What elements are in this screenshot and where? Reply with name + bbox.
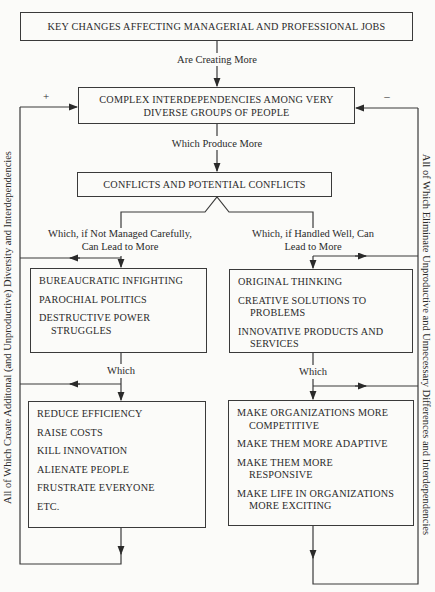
- negative-effect-item: FRUSTRATE EVERYONE: [37, 482, 205, 495]
- right-branch-line-1: Which, if Handled Well, Can: [240, 228, 386, 241]
- negative-effect-item: ALIENATE PEOPLE: [37, 464, 205, 477]
- item-line-2: SERVICES: [238, 338, 412, 351]
- right-which-label: Which: [293, 366, 333, 379]
- item-line: ORIGINAL THINKING: [238, 276, 342, 287]
- complex-line-1: COMPLEX INTERDEPENDENCIES AMONG VERY: [99, 93, 333, 106]
- complex-line-2: DIVERSE GROUPS OF PEOPLE: [143, 106, 289, 119]
- negative-feedback-sign: –: [381, 90, 393, 103]
- item-line-2: COMPETITIVE: [237, 420, 413, 433]
- positive-effect-item: MAKE THEM MORE ADAPTIVE: [237, 438, 413, 451]
- conflicts-text: CONFLICTS AND POTENTIAL CONFLICTS: [103, 178, 305, 191]
- item-line: FRUSTRATE EVERYONE: [37, 482, 155, 493]
- item-line: DESTRUCTIVE POWER: [39, 312, 150, 323]
- item-line: MAKE THEM MORE: [237, 457, 333, 468]
- left-feedback-label: All of Which Create Additonal (and Unpro…: [2, 128, 13, 528]
- positive-feedback-sign: +: [40, 90, 52, 103]
- negative-outcome-item: PAROCHIAL POLITICS: [39, 294, 206, 307]
- complex-interdependencies-box: COMPLEX INTERDEPENDENCIES AMONG VERY DIV…: [78, 87, 355, 124]
- positive-outcome-item: CREATIVE SOLUTIONS TO PROBLEMS: [238, 295, 412, 320]
- edge-label-which-produce-more: Which Produce More: [157, 138, 277, 151]
- item-line-2: RESPONSIVE: [237, 469, 413, 482]
- positive-effect-item: MAKE THEM MORE RESPONSIVE: [237, 457, 413, 482]
- right-branch-label: Which, if Handled Well, Can Lead to More: [240, 228, 386, 253]
- item-line-2: MORE EXCITING: [237, 500, 413, 513]
- negative-outcome-item: DESTRUCTIVE POWER STRUGGLES: [39, 312, 206, 337]
- item-line: INNOVATIVE PRODUCTS AND: [238, 326, 383, 337]
- right-branch-line-2: Lead to More: [240, 241, 386, 254]
- left-branch-label: Which, if Not Managed Carefully, Can Lea…: [30, 228, 210, 253]
- positive-outcomes-box: ORIGINAL THINKING CREATIVE SOLUTIONS TO …: [229, 269, 413, 353]
- item-line: MAKE LIFE IN ORGANIZATIONS: [237, 488, 394, 499]
- positive-outcome-item: INNOVATIVE PRODUCTS AND SERVICES: [238, 326, 412, 351]
- item-line: ETC.: [37, 501, 60, 512]
- conflicts-box: CONFLICTS AND POTENTIAL CONFLICTS: [77, 172, 332, 197]
- positive-effect-item: MAKE ORGANIZATIONS MORE COMPETITIVE: [237, 407, 413, 432]
- negative-effects-box: REDUCE EFFICIENCY RAISE COSTS KILL INNOV…: [28, 401, 206, 528]
- key-changes-text: KEY CHANGES AFFECTING MANAGERIAL AND PRO…: [48, 20, 386, 33]
- negative-outcomes-box: BUREAUCRATIC INFIGHTING PAROCHIAL POLITI…: [30, 268, 207, 353]
- item-line: REDUCE EFFICIENCY: [37, 408, 143, 419]
- positive-outcome-item: ORIGINAL THINKING: [238, 276, 412, 289]
- item-line-2: STRUGGLES: [39, 325, 206, 338]
- item-line-2: PROBLEMS: [238, 307, 412, 320]
- item-line: MAKE THEM MORE ADAPTIVE: [237, 438, 388, 449]
- item-line: BUREAUCRATIC INFIGHTING: [39, 275, 183, 286]
- negative-effect-item: RAISE COSTS: [37, 427, 205, 440]
- item-line: KILL INNOVATION: [37, 445, 127, 456]
- positive-effects-box: MAKE ORGANIZATIONS MORE COMPETITIVE MAKE…: [228, 400, 414, 526]
- item-line: RAISE COSTS: [37, 427, 103, 438]
- left-branch-line-1: Which, if Not Managed Carefully,: [30, 228, 210, 241]
- item-line: ALIENATE PEOPLE: [37, 464, 129, 475]
- item-line: PAROCHIAL POLITICS: [39, 294, 147, 305]
- item-line: MAKE ORGANIZATIONS MORE: [237, 407, 388, 418]
- right-feedback-label: All of Which Eliminate Unproductive and …: [421, 145, 432, 545]
- negative-effect-item: ETC.: [37, 501, 205, 514]
- left-branch-line-2: Can Lead to More: [30, 241, 210, 254]
- negative-effect-item: KILL INNOVATION: [37, 445, 205, 458]
- positive-effect-item: MAKE LIFE IN ORGANIZATIONS MORE EXCITING: [237, 488, 413, 513]
- item-line: CREATIVE SOLUTIONS TO: [238, 295, 366, 306]
- key-changes-box: KEY CHANGES AFFECTING MANAGERIAL AND PRO…: [20, 12, 413, 41]
- edge-label-are-creating-more: Are Creating More: [167, 54, 267, 67]
- negative-outcome-item: BUREAUCRATIC INFIGHTING: [39, 275, 206, 288]
- left-which-label: Which: [101, 365, 141, 378]
- negative-effect-item: REDUCE EFFICIENCY: [37, 408, 205, 421]
